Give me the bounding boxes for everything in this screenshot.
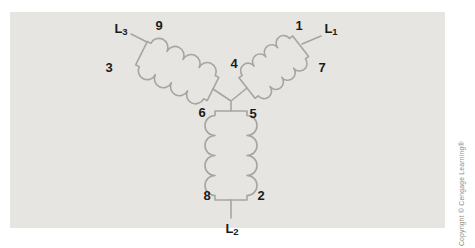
terminal-label-9: 9 (155, 18, 162, 33)
terminal-label-5: 5 (249, 106, 256, 121)
copyright-text: Copyright © Cengage Learning® (458, 141, 466, 246)
terminal-label-8: 8 (203, 188, 210, 203)
terminal-label-2: 2 (257, 188, 264, 203)
winding-diagram: 9 3 1 7 4 6 5 8 2 L3 L1 L2 Copyright © C… (0, 0, 475, 248)
diagram-panel (10, 12, 445, 228)
terminal-label-3: 3 (105, 60, 112, 75)
terminal-label-4: 4 (230, 56, 238, 71)
terminal-label-1: 1 (295, 18, 302, 33)
terminal-label-7: 7 (318, 60, 325, 75)
terminal-label-6: 6 (198, 105, 205, 120)
